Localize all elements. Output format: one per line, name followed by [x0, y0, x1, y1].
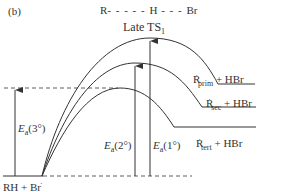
ts-label-sub: 1: [161, 27, 165, 36]
product-tert: R·tert + HBr: [196, 136, 242, 152]
radical-dot: ·: [40, 179, 43, 188]
ea3-label: Ea(3°): [18, 123, 46, 137]
product-prim-sub: prim: [198, 79, 213, 88]
ea1-paren: (1°): [163, 139, 180, 151]
ea2-paren: (2°): [114, 139, 131, 151]
ea1-label: Ea(1°): [153, 140, 181, 154]
product-tert-rest: + HBr: [212, 137, 243, 149]
ts-atom-br: Br: [186, 4, 197, 16]
product-sec: R·sec + HBr: [206, 96, 252, 112]
product-prim-rest: + HBr: [213, 73, 244, 85]
ea3-symbol: E: [18, 122, 25, 134]
product-tert-sub: tert: [201, 143, 212, 152]
ts-structure: R- - - - - H - - - Br: [100, 5, 197, 16]
product-sec-sub: sec: [211, 103, 221, 112]
reactant-text: RH + Br: [3, 181, 41, 192]
ts-label-text: Late TS: [123, 20, 161, 34]
product-prim: R·prim + HBr: [193, 72, 244, 88]
product-sec-rest: + HBr: [221, 97, 252, 109]
panel-label: (b): [8, 6, 21, 17]
ea3-paren: (3°): [28, 122, 45, 134]
ea2-label: Ea(2°): [104, 140, 132, 154]
ts-label: Late TS1: [123, 21, 165, 36]
ea1-symbol: E: [153, 139, 160, 151]
ea2-symbol: E: [104, 139, 111, 151]
reactant-label: RH + Br·: [3, 180, 43, 192]
